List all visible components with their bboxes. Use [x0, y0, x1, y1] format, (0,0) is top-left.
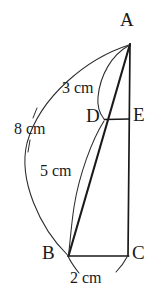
measurement-label-5cm: 5 cm — [40, 163, 72, 179]
vertex-label-c: C — [132, 243, 145, 262]
geometry-figure: A B C D E 3 cm 8 cm 5 cm 2 cm — [0, 0, 156, 295]
leader-tick-8cm-lower — [28, 140, 30, 152]
vertex-label-a: A — [120, 10, 134, 29]
vertex-label-d: D — [86, 106, 100, 125]
measurement-label-3cm: 3 cm — [62, 80, 94, 96]
leader-tick-c — [116, 257, 127, 272]
arc-3cm-a-to-d — [98, 46, 128, 119]
measurement-label-2cm: 2 cm — [70, 270, 102, 286]
vertex-label-b: B — [42, 243, 55, 262]
vertex-label-e: E — [133, 105, 145, 124]
segment-d-e — [105, 119, 130, 120]
leader-tick-8cm-upper — [33, 108, 37, 118]
measurement-label-8cm: 8 cm — [14, 121, 46, 137]
segment-a-b-through-d — [69, 44, 131, 256]
segment-a-c — [128, 44, 130, 256]
